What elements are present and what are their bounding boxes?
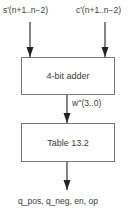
connection-arrows — [0, 0, 138, 216]
input-label-c: c'(n+1..n−2) — [76, 5, 121, 15]
table-block-label: Table 13.2 — [47, 138, 89, 148]
signal-label-w: w''(3..0) — [72, 98, 101, 108]
table-block: Table 13.2 — [21, 123, 115, 162]
output-label: q_pos, q_neg, en, op — [18, 196, 98, 206]
adder-block-label: 4-bit adder — [46, 71, 89, 81]
adder-block: 4-bit adder — [21, 57, 115, 95]
input-label-s: s'(n+1..n−2) — [3, 5, 48, 15]
